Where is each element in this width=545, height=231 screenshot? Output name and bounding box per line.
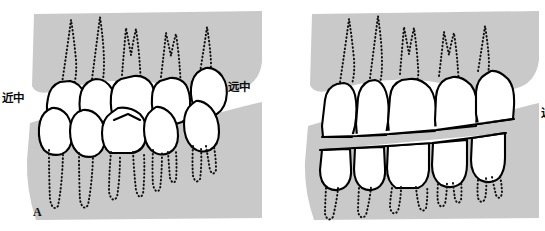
figure-root: .bone { fill:#c9c9c9; stroke:none; } .cr…	[0, 0, 545, 231]
panel-a: .bone { fill:#c9c9c9; stroke:none; } .cr…	[0, 0, 272, 231]
panel-a-letter: A	[33, 206, 42, 218]
panel-b-mesial-label: 近中	[541, 108, 545, 120]
panel-a-distal-label: 远中	[228, 82, 251, 94]
panel-b-illustration: .boneB { fill:#c9c9c9; stroke:none; } .c…	[273, 0, 545, 231]
panel-b: .boneB { fill:#c9c9c9; stroke:none; } .c…	[273, 0, 545, 231]
panel-a-mesial-label: 近中	[2, 93, 25, 105]
panel-a-illustration: .bone { fill:#c9c9c9; stroke:none; } .cr…	[0, 0, 272, 231]
